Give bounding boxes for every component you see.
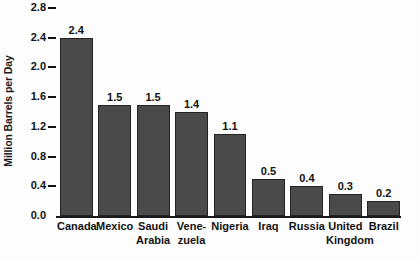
y-axis-tick-mark: [48, 185, 56, 187]
plot-area: 2.82.42.01.61.20.80.40.0 2.41.51.51.41.1…: [57, 8, 403, 218]
y-axis-tick: 0.8: [5, 151, 57, 163]
x-axis-category-label-line: Russia: [289, 220, 325, 232]
y-axis-tick-label: 0.4: [31, 179, 46, 191]
x-axis-category-label: UnitedKingdom: [326, 220, 364, 247]
bar-value-label: 0.5: [261, 165, 276, 177]
bar-group: 1.5: [98, 89, 131, 216]
bar: [214, 134, 247, 216]
bar: [175, 112, 208, 216]
y-axis-tick-mark: [48, 156, 56, 158]
x-axis-category-label: Brazil: [365, 220, 403, 234]
bar-group: 2.4: [60, 22, 93, 216]
bar-value-label: 2.4: [69, 24, 84, 36]
x-axis-category-label: Canada: [57, 220, 95, 234]
y-axis-tick-mark: [48, 66, 56, 68]
x-axis-category-label-line: Arabia: [134, 234, 172, 248]
x-axis-category-label: SaudiArabia: [134, 220, 172, 247]
y-axis-tick-mark: [48, 7, 56, 9]
y-axis-tick: 0.4: [5, 180, 57, 192]
y-axis-tick-label: 0.8: [31, 150, 46, 162]
bar-group: 0.4: [290, 170, 323, 216]
y-axis-tick-mark: [48, 37, 56, 39]
y-axis-tick-label: 2.8: [31, 1, 46, 13]
bar-value-label: 0.2: [376, 187, 391, 199]
y-axis-tick-label: 2.4: [31, 31, 46, 43]
bar-chart: Million Barrels per Day 2.82.42.01.61.20…: [0, 0, 419, 261]
x-axis-category-label: Mexico: [95, 220, 133, 234]
bar-value-label: 1.4: [184, 98, 199, 110]
y-axis-tick-mark: [48, 126, 56, 128]
bar-group: 1.4: [175, 96, 208, 216]
x-axis-category-label-line: Kingdom: [326, 234, 364, 248]
x-axis-category-label-line: Saudi: [138, 220, 168, 232]
x-axis-labels: CanadaMexicoSaudiArabiaVene-zuelaNigeria…: [57, 220, 403, 260]
y-axis-tick: 2.0: [5, 61, 57, 73]
y-axis-tick-label: 0.0: [31, 209, 46, 221]
x-axis-category-label-line: Canada: [57, 220, 97, 232]
bar-value-label: 0.4: [299, 172, 314, 184]
bar-group: 0.3: [329, 178, 362, 216]
bar-value-label: 0.3: [338, 180, 353, 192]
bar-value-label: 1.1: [222, 120, 237, 132]
y-axis-tick: 2.8: [5, 2, 57, 14]
bar: [252, 179, 285, 216]
bar-group: 1.1: [214, 118, 247, 216]
x-axis-category-label-line: United: [328, 220, 362, 232]
y-axis-tick-mark: [48, 96, 56, 98]
bar-group: 0.2: [367, 185, 400, 216]
x-axis-category-label: Russia: [288, 220, 326, 234]
bar: [290, 186, 323, 216]
x-axis-category-label-line: Mexico: [96, 220, 133, 232]
x-axis-category-label: Vene-zuela: [172, 220, 210, 247]
bar: [367, 201, 400, 216]
y-axis-tick-label: 1.2: [31, 120, 46, 132]
y-axis-tick: 1.6: [5, 91, 57, 103]
bar: [137, 105, 170, 216]
x-axis-category-label-line: Iraq: [258, 220, 278, 232]
bar-value-label: 1.5: [145, 91, 160, 103]
x-axis-category-label-line: zuela: [172, 234, 210, 248]
x-axis-line: [56, 216, 401, 218]
bar-group: 1.5: [137, 89, 170, 216]
x-axis-category-label: Iraq: [249, 220, 287, 234]
y-axis-tick: 0.0: [5, 210, 57, 222]
bar-value-label: 1.5: [107, 91, 122, 103]
y-axis-tick-label: 1.6: [31, 90, 46, 102]
x-axis-category-label: Nigeria: [211, 220, 249, 234]
x-axis-category-label-line: Nigeria: [211, 220, 248, 232]
y-axis-tick-label: 2.0: [31, 60, 46, 72]
bar: [60, 38, 93, 216]
bar-group: 0.5: [252, 163, 285, 216]
y-axis-tick: 1.2: [5, 121, 57, 133]
x-axis-category-label-line: Brazil: [369, 220, 399, 232]
bars-layer: 2.41.51.51.41.10.50.40.30.2: [57, 8, 403, 216]
y-axis-tick: 2.4: [5, 32, 57, 44]
bar: [329, 194, 362, 216]
x-axis-category-label-line: Vene-: [177, 220, 206, 232]
bar: [98, 105, 131, 216]
